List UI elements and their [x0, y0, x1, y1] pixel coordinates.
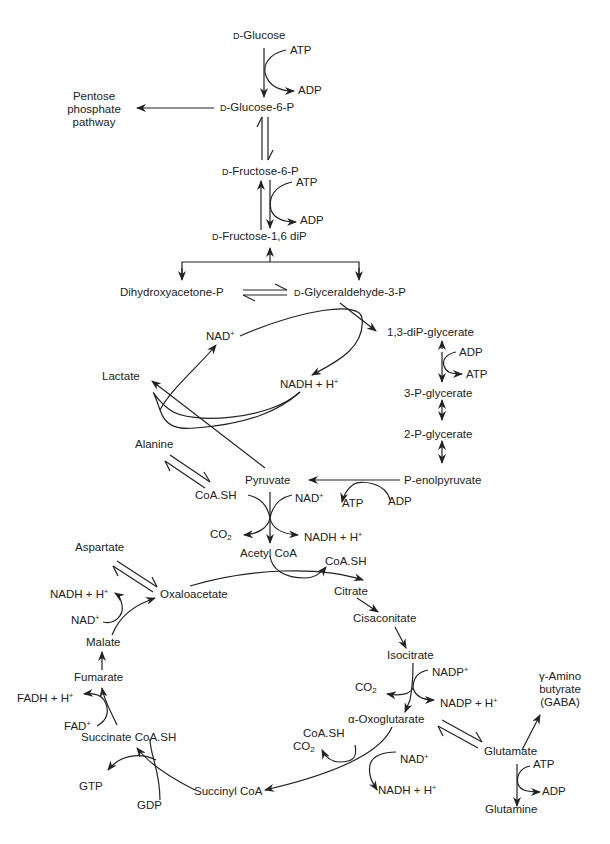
node-aspartate: Aspartate: [75, 541, 124, 554]
node-coa-sh: CoA.SH: [325, 555, 367, 568]
node-d-glucose-6-p: D-Glucose-6-P: [220, 101, 294, 115]
node-adp: ADP: [459, 346, 483, 359]
node-fumarate: Fumarate: [74, 671, 123, 684]
node-succinyl-coa: Succinyl CoA: [194, 785, 262, 798]
node-glutamine: Glutamine: [485, 803, 537, 816]
node-nadh-h-plus: NADH + H+: [304, 528, 362, 544]
node-atp: ATP: [290, 44, 312, 57]
node-gtp: GTP: [79, 780, 103, 793]
node-acetyl-coa: Acetyl CoA: [240, 547, 297, 560]
node-p-enolpyruvate: P-enolpyruvate: [404, 474, 481, 487]
node-d-fructose-6-p: D-Fructose-6-P: [222, 165, 299, 179]
node-alanine: Alanine: [135, 438, 173, 451]
node-nad-plus: NAD+: [206, 327, 234, 343]
node-nad-plus: NAD+: [71, 611, 99, 627]
node-fadh-h-plus: FADH + H+: [17, 689, 73, 705]
node-malate: Malate: [86, 636, 121, 649]
node-gaba: γ-Amino butyrate (GABA): [528, 670, 592, 709]
node-pyruvate: Pyruvate: [245, 474, 290, 487]
node-co2: CO2: [293, 740, 315, 756]
node-adp: ADP: [542, 785, 566, 798]
node-d-glucose: D-Glucose: [233, 29, 286, 43]
node-pentose-phosphate-pathway: Pentose phosphate pathway: [64, 90, 124, 129]
node-gdp: GDP: [137, 799, 162, 812]
node-nad-plus: NAD+: [400, 750, 428, 766]
node-atp: ATP: [466, 368, 488, 381]
node-nadh-h-plus: NADH + H+: [280, 375, 338, 391]
node-atp: ATP: [533, 758, 555, 771]
node-glutamate: Glutamate: [484, 745, 537, 758]
node-atp: ATP: [342, 497, 364, 510]
node-coa-sh: CoA.SH: [303, 727, 345, 740]
node-nadh-h-plus: NADH + H+: [378, 781, 436, 797]
node-d-glyceraldehyde-3-p: D-Glyceraldehyde-3-P: [294, 286, 406, 300]
node-adp: ADP: [298, 84, 322, 97]
node-2-p-glycerate: 2-P-glycerate: [404, 428, 472, 441]
node-co2: CO2: [210, 528, 232, 544]
node-coa-sh: CoA.SH: [195, 489, 237, 502]
node-isocitrate: Isocitrate: [387, 649, 434, 662]
node-co2: CO2: [355, 681, 377, 697]
node-alpha-oxoglutarate: α-Oxoglutarate: [348, 713, 424, 726]
node-oxaloacetate: Oxaloacetate: [160, 588, 228, 601]
metabolic-pathway-diagram: D-Glucose ATP ADP Pentose phosphate path…: [0, 0, 610, 844]
node-lactate: Lactate: [102, 370, 140, 383]
node-nad-plus: NAD+: [295, 489, 323, 505]
node-dihydroxyacetone-p: Dihydroxyacetone-P: [120, 286, 224, 299]
node-cisaconitate: Cisaconitate: [353, 612, 416, 625]
node-nadp-plus: NADP+: [432, 663, 468, 679]
node-succinate-coa-sh: Succinate CoA.SH: [81, 731, 176, 744]
node-d-fructose-1-6-dip: D-Fructose-1,6 diP: [212, 230, 307, 244]
node-atp: ATP: [296, 176, 318, 189]
node-adp: ADP: [388, 495, 412, 508]
node-3-p-glycerate: 3-P-glycerate: [404, 387, 472, 400]
node-nadh-h-plus: NADH + H+: [50, 585, 108, 601]
node-citrate: Citrate: [334, 585, 368, 598]
node-1-3-dip-glycerate: 1,3-diP-glycerate: [387, 326, 474, 339]
node-adp: ADP: [300, 214, 324, 227]
node-nadp-h-plus: NADP + H+: [440, 694, 497, 710]
node-fad-plus: FAD+: [64, 717, 90, 733]
